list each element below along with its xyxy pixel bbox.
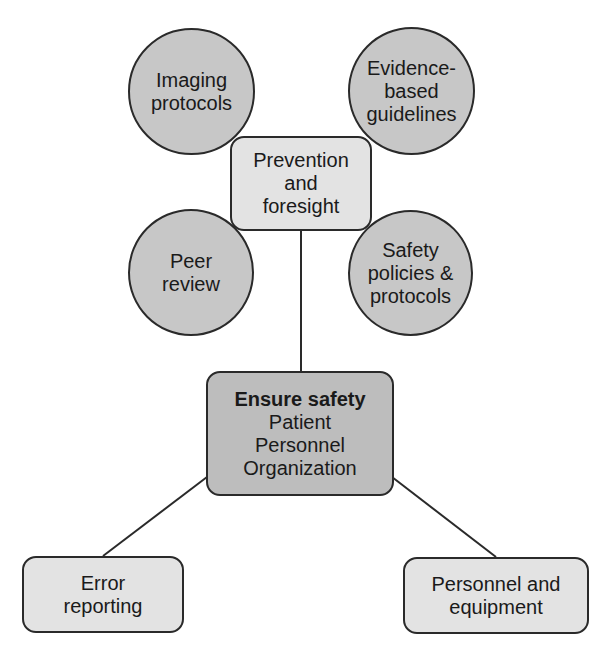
circle-label-line: protocols xyxy=(370,285,451,308)
ensure-safety-box: Ensure safety Patient Personnel Organiza… xyxy=(206,371,394,496)
box-label-line: Organization xyxy=(243,457,356,480)
circle-evidence-based-guidelines: Evidence- based guidelines xyxy=(348,27,475,155)
box-label-line: foresight xyxy=(263,195,340,218)
box-label-line: reporting xyxy=(64,595,143,618)
box-label-line: Personnel xyxy=(255,434,345,457)
connector-center-to-personnel-equipment xyxy=(392,477,496,557)
box-label-line: equipment xyxy=(449,596,542,619)
circle-label-line: guidelines xyxy=(366,103,456,126)
circle-label-line: protocols xyxy=(151,92,232,115)
circle-label-line: policies & xyxy=(368,262,454,285)
connector-lines xyxy=(0,0,610,646)
error-reporting-box: Error reporting xyxy=(22,556,184,633)
circle-label-line: Safety xyxy=(382,239,439,262)
circle-safety-policies-protocols: Safety policies & protocols xyxy=(348,210,473,336)
personnel-and-equipment-box: Personnel and equipment xyxy=(403,557,589,634)
ensure-safety-title: Ensure safety xyxy=(234,388,365,411)
circle-label-line: based xyxy=(384,80,439,103)
connector-center-to-error-reporting xyxy=(103,477,207,556)
box-label-line: Prevention xyxy=(253,149,349,172)
circle-label-line: Peer xyxy=(170,250,212,273)
box-label-line: Patient xyxy=(269,411,331,434)
box-label-line: Error xyxy=(81,572,125,595)
safety-concept-diagram: Imaging protocols Evidence- based guidel… xyxy=(0,0,610,646)
circle-label-line: Imaging xyxy=(156,69,227,92)
circle-label-line: Evidence- xyxy=(367,57,456,80)
circle-label-line: review xyxy=(162,273,220,296)
circle-imaging-protocols: Imaging protocols xyxy=(128,28,255,155)
box-label-line: and xyxy=(284,172,317,195)
box-label-line: Personnel and xyxy=(432,573,561,596)
prevention-and-foresight-box: Prevention and foresight xyxy=(230,136,372,231)
